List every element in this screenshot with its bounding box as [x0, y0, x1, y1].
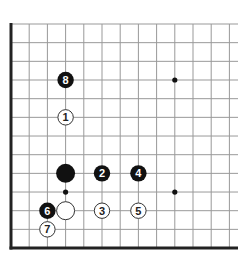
move-number: 4: [135, 167, 142, 179]
star-point-icon: [172, 77, 177, 82]
white-stone-1: 1: [58, 110, 73, 125]
black-stone-icon: [56, 164, 75, 183]
move-number: 6: [44, 205, 50, 217]
black-stone-8: 8: [57, 72, 73, 88]
black-stone: [56, 164, 75, 183]
white-stone-5: 5: [131, 203, 146, 218]
black-stone-4: 4: [130, 165, 146, 181]
black-stone-2: 2: [94, 165, 110, 181]
move-number: 1: [63, 111, 69, 123]
black-stone-6: 6: [39, 203, 55, 219]
white-stone-3: 3: [94, 203, 109, 218]
move-number: 7: [44, 223, 50, 235]
star-point-icon: [63, 189, 68, 194]
white-stone-icon: [57, 202, 75, 220]
white-stone-7: 7: [40, 222, 55, 237]
move-number: 8: [63, 74, 69, 86]
move-number: 2: [99, 167, 105, 179]
move-number: 3: [99, 205, 105, 217]
white-stone: [57, 202, 75, 220]
go-board: 81246357: [0, 0, 248, 256]
star-point-icon: [172, 189, 177, 194]
move-number: 5: [135, 205, 141, 217]
